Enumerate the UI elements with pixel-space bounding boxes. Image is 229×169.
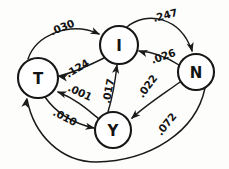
graph-canvas: TINY .030.124.247.026.017.022.001.010.07… xyxy=(0,0,229,169)
edge-weight-label-t-to-i: .030 xyxy=(48,17,76,38)
edge-weight-label-n-to-y: .022 xyxy=(135,72,160,99)
node-label: N xyxy=(190,64,203,82)
edge-weight-label-t-to-y: .010 xyxy=(51,106,79,128)
node-T[interactable]: T xyxy=(18,58,58,98)
edge-weight-label-i-to-t: .124 xyxy=(63,56,91,79)
node-label: Y xyxy=(107,122,120,140)
edge-curve xyxy=(28,29,99,59)
edge-weight-label-n-to-i: .026 xyxy=(149,46,177,66)
state-transition-diagram: TINY .030.124.247.026.017.022.001.010.07… xyxy=(0,0,229,169)
node-N[interactable]: N xyxy=(178,54,214,90)
node-label: T xyxy=(33,70,44,88)
edge-weight-label-y-to-i: .017 xyxy=(100,78,117,105)
arrowhead-icon xyxy=(187,42,196,53)
edge-weight-label-y-to-t: .001 xyxy=(66,81,94,102)
node-I[interactable]: I xyxy=(100,26,138,64)
arrowhead-icon xyxy=(56,88,67,98)
arrowhead-icon xyxy=(90,27,102,38)
edge-weight-label-n-to-t: .072 xyxy=(153,110,178,137)
node-Y[interactable]: Y xyxy=(95,112,131,148)
nodes-layer: TINY xyxy=(18,26,214,148)
node-label: I xyxy=(116,37,122,55)
